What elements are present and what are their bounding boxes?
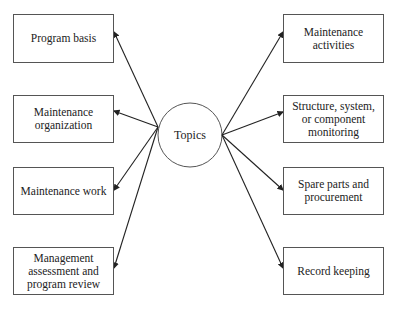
center-topic-label: Topics — [158, 128, 222, 143]
arrow-maintenance-work — [114, 127, 158, 190]
box-maintenance-organization: Maintenance organization — [13, 95, 114, 143]
arrow-program-basis — [114, 32, 158, 127]
box-spare-parts: Spare parts and procurement — [283, 167, 384, 215]
box-ssc-monitoring: Structure, system, or component monitori… — [283, 95, 384, 143]
box-maintenance-activities: Maintenance activities — [283, 14, 384, 63]
box-management-assessment: Management assessment and program review — [13, 247, 114, 295]
box-program-basis: Program basis — [13, 14, 114, 63]
arrow-management-assessment — [114, 127, 158, 268]
arrow-spare-parts — [222, 135, 283, 190]
box-record-keeping: Record keeping — [283, 247, 384, 295]
arrow-ssc-monitoring — [222, 112, 283, 135]
arrow-record-keeping — [222, 135, 283, 268]
arrow-maintenance-activities — [222, 32, 283, 135]
box-maintenance-work: Maintenance work — [13, 167, 114, 215]
